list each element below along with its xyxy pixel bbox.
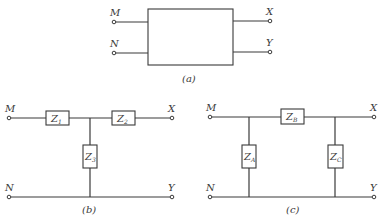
- two-port-box: [148, 9, 233, 65]
- label-a-m: M: [109, 7, 121, 18]
- terminal-a-x: [268, 19, 272, 23]
- label-b-y: Y: [168, 182, 176, 193]
- terminal-a-m: [112, 20, 116, 24]
- two-port-network-diagram: M N X Y (a) Z1 Z2 Z3 M X N Y (b): [0, 0, 383, 217]
- terminal-b-n: [7, 195, 11, 199]
- label-b-m: M: [4, 103, 16, 114]
- label-b-n: N: [4, 182, 15, 193]
- panel-a: M N X Y (a): [109, 6, 274, 84]
- terminal-a-n: [112, 51, 116, 55]
- terminal-c-x: [372, 115, 376, 119]
- caption-a: (a): [182, 73, 196, 84]
- terminal-c-y: [372, 195, 376, 199]
- terminal-b-m: [7, 116, 11, 120]
- terminal-c-m: [208, 115, 212, 119]
- label-b-x: X: [167, 103, 176, 114]
- label-a-x: X: [265, 6, 274, 17]
- label-a-n: N: [109, 38, 120, 49]
- terminal-c-n: [208, 195, 212, 199]
- label-c-n: N: [205, 182, 216, 193]
- terminal-a-y: [268, 50, 272, 54]
- label-a-y: Y: [266, 37, 274, 48]
- caption-b: (b): [82, 204, 96, 215]
- label-c-y: Y: [370, 182, 378, 193]
- label-c-m: M: [205, 102, 217, 113]
- panel-b-t-network: Z1 Z2 Z3 M X N Y (b): [4, 103, 176, 215]
- terminal-b-x: [170, 116, 174, 120]
- caption-c: (c): [286, 204, 300, 215]
- label-c-x: X: [369, 102, 378, 113]
- terminal-b-y: [170, 195, 174, 199]
- panel-c-pi-network: ZB ZA ZC M X N Y (c): [205, 102, 378, 215]
